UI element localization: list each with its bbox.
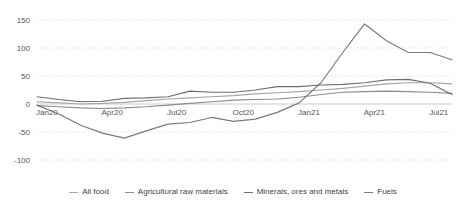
chart-legend: All foodAgricultural raw materialsMinera…	[0, 187, 466, 197]
series-line-fuels	[37, 24, 452, 138]
legend-swatch-icon	[364, 192, 373, 193]
data-series-lines	[37, 24, 452, 138]
legend-item[interactable]: All food	[69, 187, 109, 197]
legend-swatch-icon	[125, 192, 134, 193]
legend-label: Fuels	[377, 187, 397, 197]
legend-item[interactable]: Agricultural raw materials	[125, 187, 228, 197]
gridlines	[37, 20, 452, 160]
legend-label: Agricultural raw materials	[138, 187, 228, 197]
y-tick-label: 150	[17, 16, 31, 25]
y-tick-label: -100	[14, 156, 31, 165]
x-tick-label: Apr20	[102, 108, 124, 117]
legend-swatch-icon	[69, 192, 78, 193]
y-tick-label: 50	[21, 72, 30, 81]
y-tick-label: 100	[17, 44, 31, 53]
chart-plot-area: 150100500-50-100 Jan20Apr20Jul20Oct20Jan…	[0, 0, 466, 201]
legend-swatch-icon	[244, 192, 253, 193]
x-tick-label: Apr21	[364, 108, 386, 117]
y-tick-label: -50	[18, 128, 30, 137]
x-tick-label: Jan21	[298, 108, 320, 117]
line-chart: 150100500-50-100 Jan20Apr20Jul20Oct20Jan…	[0, 0, 466, 201]
series-line-minerals-ores-and-metals	[37, 79, 452, 101]
x-axis-tick-labels: Jan20Apr20Jul20Oct20Jan21Apr21Jul21	[36, 108, 449, 117]
legend-label: All food	[82, 187, 109, 197]
x-tick-label: Jul21	[429, 108, 449, 117]
y-axis-tick-labels: 150100500-50-100	[14, 16, 31, 165]
y-tick-label: 0	[26, 100, 31, 109]
series-line-agricultural-raw-materials	[37, 91, 452, 108]
x-tick-label: Oct20	[233, 108, 255, 117]
x-tick-label: Jul20	[167, 108, 187, 117]
legend-label: Minerals, ores and metals	[257, 187, 349, 197]
legend-item[interactable]: Minerals, ores and metals	[244, 187, 349, 197]
legend-item[interactable]: Fuels	[364, 187, 397, 197]
